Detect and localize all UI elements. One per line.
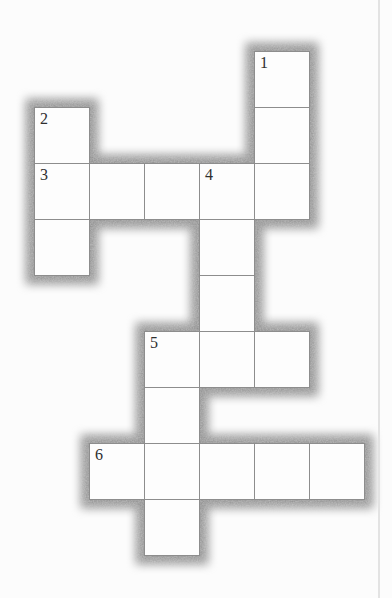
crossword-cell[interactable]	[199, 219, 255, 276]
clue-number: 1	[255, 52, 309, 72]
crossword-cell[interactable]	[254, 443, 310, 500]
crossword-cell[interactable]: 1	[254, 51, 310, 108]
crossword-cell[interactable]	[309, 443, 365, 500]
crossword-cell[interactable]	[144, 387, 200, 444]
crossword-cell[interactable]	[254, 163, 310, 220]
crossword-cell[interactable]	[199, 443, 255, 500]
crossword-cell[interactable]	[199, 275, 255, 332]
crossword-cell[interactable]	[144, 499, 200, 556]
crossword-cell[interactable]	[199, 331, 255, 388]
crossword-cell[interactable]: 4	[199, 163, 255, 220]
crossword-cell[interactable]	[144, 163, 200, 220]
crossword-cell[interactable]	[89, 163, 145, 220]
clue-number: 4	[200, 164, 254, 184]
crossword-cell[interactable]: 5	[144, 331, 200, 388]
crossword-cell[interactable]	[34, 219, 90, 276]
clue-number: 2	[35, 108, 89, 128]
crossword-cell[interactable]: 2	[34, 107, 90, 164]
crossword-cell[interactable]: 6	[89, 443, 145, 500]
crossword-cell[interactable]	[254, 331, 310, 388]
clue-number: 5	[145, 332, 199, 352]
clue-number: 3	[35, 164, 89, 184]
crossword-grid: 123456	[0, 0, 392, 598]
crossword-puzzle-page: 123456	[0, 0, 392, 598]
crossword-cell[interactable]: 3	[34, 163, 90, 220]
clue-number: 6	[90, 444, 144, 464]
crossword-cell[interactable]	[144, 443, 200, 500]
crossword-cell[interactable]	[254, 107, 310, 164]
